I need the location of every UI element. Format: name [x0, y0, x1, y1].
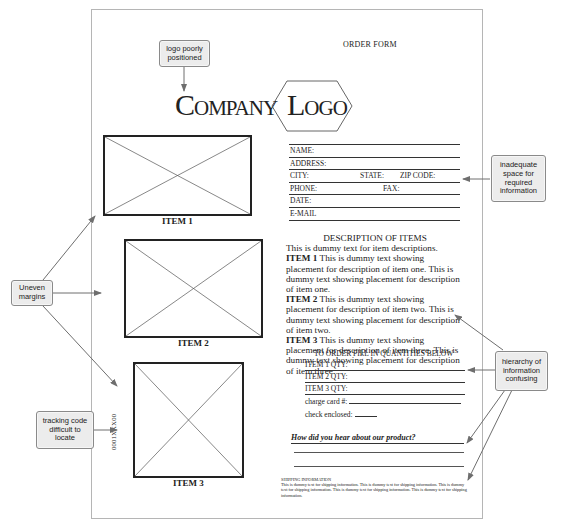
item-2-qty-field[interactable]: ITEM 2 QTY:	[305, 371, 465, 383]
placeholder-x-icon	[135, 364, 242, 476]
logo-word-initial: L	[287, 88, 304, 121]
survey-answer-line-2[interactable]	[294, 466, 464, 467]
logo-word-text: LOGO	[287, 90, 347, 123]
charge-card-line[interactable]	[349, 395, 461, 404]
charge-card-field[interactable]: charge card #:	[305, 395, 461, 407]
fax-label: FAX:	[383, 183, 400, 194]
check-enclosed-field[interactable]: check enclosed:	[305, 408, 377, 420]
phone-fax-field[interactable]: PHONE: FAX:	[289, 182, 460, 195]
placeholder-x-icon	[105, 137, 250, 214]
description-item-2: ITEM 2 This is dummy text showing placem…	[286, 294, 464, 335]
city-label: CITY:	[290, 170, 309, 181]
item-3-image-placeholder	[133, 362, 244, 478]
item-3-label: ITEM 3	[133, 478, 244, 488]
description-item-3-label: ITEM 3	[286, 335, 317, 345]
name-field[interactable]: NAME:	[289, 144, 460, 157]
contact-fields: NAME: ADDRESS: CITY: STATE: ZIP CODE: PH…	[289, 144, 460, 221]
check-enclosed-line[interactable]	[355, 408, 377, 417]
shipping-text: This is dummy text for shipping informat…	[281, 482, 471, 498]
placeholder-x-icon	[126, 241, 261, 336]
check-enclosed-label: check enclosed:	[305, 410, 353, 419]
item-2-image-placeholder	[124, 239, 263, 338]
order-form-title: ORDER FORM	[343, 40, 397, 49]
survey-question[interactable]: How did you hear about our product?	[291, 433, 464, 444]
description-item-1-label: ITEM 1	[286, 253, 317, 263]
margins-arrow-1	[43, 216, 95, 280]
address-label: ADDRESS:	[290, 158, 326, 169]
description-intro: This is dummy text for item descriptions…	[286, 243, 464, 253]
charge-card-label: charge card #:	[305, 397, 347, 406]
date-label: DATE:	[290, 195, 311, 206]
callout-tracking-code: tracking code difficult to locate	[36, 411, 94, 449]
item-1-image-placeholder	[103, 135, 252, 216]
email-label: E-MAIL	[290, 208, 316, 219]
phone-label: PHONE:	[290, 183, 317, 194]
description-heading: DESCRIPTION OF ITEMS	[286, 233, 464, 243]
name-label: NAME:	[290, 145, 314, 156]
state-label: STATE:	[360, 170, 384, 181]
logo-company-rest: OMPANY	[194, 96, 277, 120]
callout-logo-position: logo poorly positioned	[159, 40, 210, 67]
shipping-information: SHIPPING INFORMATION This is dummy text …	[281, 477, 471, 498]
logo-company-initial: C	[175, 88, 194, 121]
item-3-qty-field[interactable]: ITEM 3 QTY:	[305, 383, 465, 395]
callout-hierarchy: hierarchy of information confusing	[495, 351, 548, 391]
date-field[interactable]: DATE:	[289, 194, 460, 207]
item-1-label: ITEM 1	[103, 216, 252, 226]
logo-company-text: COMPANY	[175, 90, 277, 123]
order-heading: TO ORDER FILL IN QUANTITIES BELOW	[314, 349, 453, 358]
survey-answer-line-1[interactable]	[294, 452, 464, 453]
item-1-qty-field[interactable]: ITEM 1 QTY:	[305, 359, 465, 371]
email-field[interactable]: E-MAIL	[289, 207, 460, 221]
logo-word-rest: OGO	[304, 96, 347, 120]
callout-inadequate-space: inadequate space for required informatio…	[491, 155, 546, 202]
description-item-2-label: ITEM 2	[286, 294, 317, 304]
item-2-label: ITEM 2	[124, 338, 263, 348]
callout-uneven-margins: Uneven margins	[11, 280, 53, 306]
zip-label: ZIP CODE:	[400, 170, 435, 181]
tracking-code: 0001XXX00	[110, 414, 117, 450]
city-state-zip-field[interactable]: CITY: STATE: ZIP CODE:	[289, 169, 460, 182]
address-field[interactable]: ADDRESS:	[289, 157, 460, 170]
description-item-1: ITEM 1 This is dummy text showing placem…	[286, 253, 464, 294]
